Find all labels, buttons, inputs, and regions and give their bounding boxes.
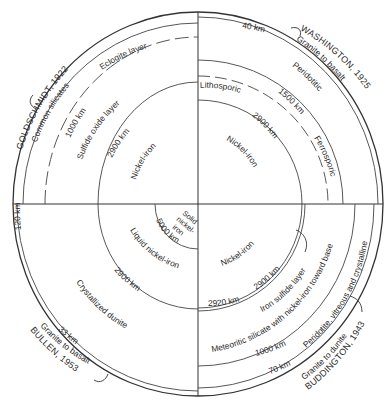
depth-40km: 40 km (242, 20, 267, 34)
depth-2920km: 2920 km (208, 294, 240, 308)
label-nickel-iron: Nickel-iron (219, 238, 256, 268)
arrow-bullen (94, 374, 108, 382)
arrow-washington-curve (291, 28, 301, 36)
depth-1000km: 1000 km (254, 338, 287, 358)
arc-1000km (45, 37, 198, 204)
depth-1500km: 1500 km (277, 86, 307, 116)
quadrant-top-right (198, 17, 378, 204)
depth-2900km: 2900 km (252, 264, 282, 292)
arc-40km (198, 17, 378, 204)
label-crystallized-dunite: Crystallized dunite (74, 278, 129, 331)
label-nickel-iron: Nickel-iron (225, 133, 261, 169)
label-peridotitic: Peridotitic (291, 60, 325, 93)
depth-2900km: 2900 km (112, 265, 142, 293)
label-eclogite-layer: Eclogite layer (98, 40, 148, 71)
depth-120km: 120 km (12, 202, 23, 230)
depth-2900km: 2900 km (251, 110, 281, 141)
label-nickel-iron: Nickel-iron (128, 140, 158, 180)
earth-interior-diagram: GOLDSCHMIDT, 1922 Common silicates 120 k… (0, 0, 391, 408)
depth-70km: 70 km (267, 358, 292, 376)
arc-2920km (198, 204, 305, 311)
arc-litho-ferro (198, 76, 328, 204)
leader-arrows (30, 0, 362, 382)
author-goldschmidt: GOLDSCHMIDT, 1922 (14, 64, 70, 151)
depth-1000km: 1000 km (63, 106, 88, 139)
